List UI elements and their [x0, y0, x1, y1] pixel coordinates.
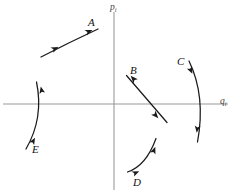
curve-d-path — [128, 139, 157, 173]
curve-e-arrow-2 — [38, 86, 45, 94]
q-axis-label: qi — [220, 97, 227, 107]
curve-label-c: C — [177, 56, 184, 67]
q-axis-label-subscript: i — [225, 100, 227, 107]
curve-a — [41, 27, 98, 57]
curve-d — [128, 139, 158, 177]
curve-c-path — [189, 61, 200, 142]
curve-b-arrow-2 — [151, 111, 161, 121]
p-axis-label-subscript: i — [115, 6, 117, 13]
curve-a-path — [41, 29, 98, 57]
curve-c — [187, 61, 201, 142]
phase-space-figure: A B C D E pi qi — [0, 0, 240, 196]
curve-label-a: A — [88, 17, 95, 28]
figure-canvas — [0, 0, 240, 196]
curve-label-b: B — [130, 65, 137, 76]
curve-e-path — [26, 82, 39, 149]
curve-b — [127, 74, 168, 123]
curve-e — [26, 82, 45, 149]
curve-b-path — [127, 76, 168, 123]
curve-label-d: D — [133, 177, 141, 188]
p-axis-label: pi — [110, 3, 117, 13]
curve-label-e: E — [32, 144, 39, 155]
